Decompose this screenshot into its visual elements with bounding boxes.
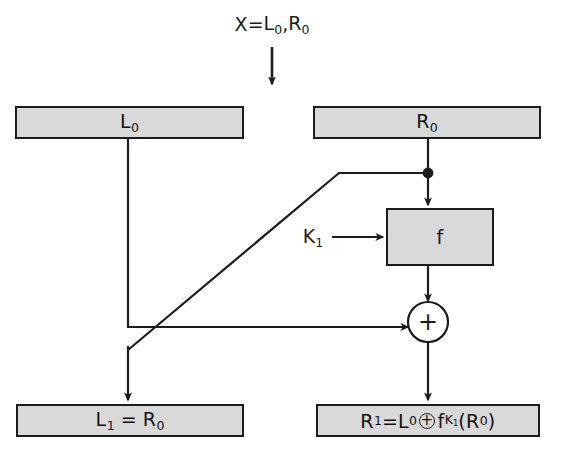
crossover-wire <box>128 173 428 400</box>
xor-symbol: + <box>408 302 448 342</box>
box-left-output[interactable]: L1 = R0 <box>16 404 244 437</box>
input-equals: = <box>248 13 264 35</box>
input-x-symbol: X <box>235 13 248 35</box>
box-right-input-label: R0 <box>416 110 438 135</box>
round-key-label: K1 <box>296 222 330 252</box>
box-right-output-label: R1 = L0+fK1(R0) <box>360 410 495 432</box>
input-left-half: L0 <box>264 12 283 37</box>
box-right-output[interactable]: R1 = L0+fK1(R0) <box>316 404 540 437</box>
box-left-output-label: L1 = R0 <box>96 408 165 433</box>
box-right-input[interactable]: R0 <box>313 106 541 139</box>
box-left-input[interactable]: L0 <box>15 106 244 139</box>
feistel-round-diagram: X = L0 , R0 L0 R0 f K1 + L1 = <box>0 0 564 450</box>
box-round-function-label: f <box>436 226 443 248</box>
box-round-function[interactable]: f <box>386 208 494 266</box>
xor-inline-icon: + <box>419 413 435 429</box>
box-left-input-label: L0 <box>120 110 139 135</box>
input-right-half: R0 <box>288 12 309 37</box>
input-expression: X = L0 , R0 <box>196 8 348 40</box>
